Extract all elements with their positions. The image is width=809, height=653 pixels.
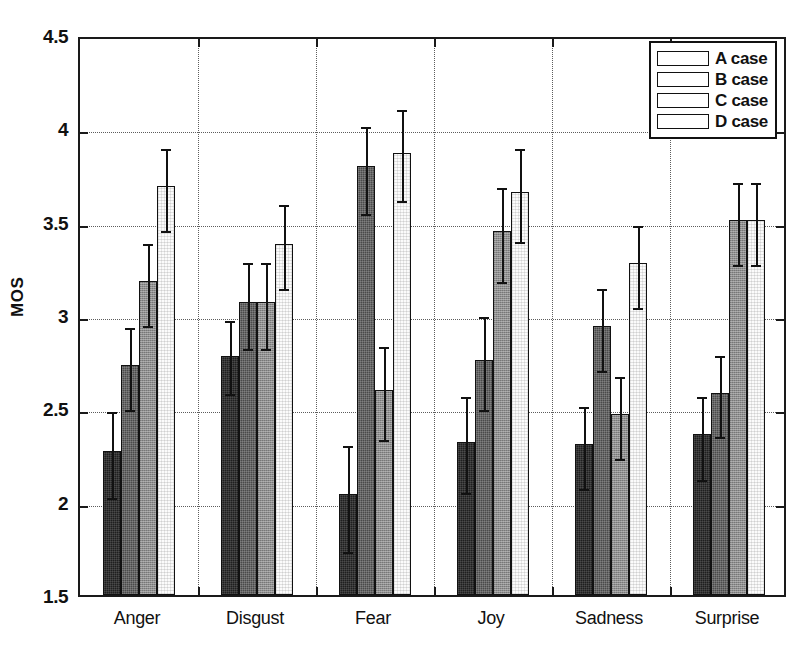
legend-label: D case	[715, 112, 768, 132]
error-bar-cap-lower	[225, 394, 234, 396]
error-bar-cap-lower	[379, 440, 388, 442]
error-bar-cap-lower	[343, 552, 352, 554]
error-bar	[284, 205, 286, 289]
error-bar-cap-upper	[261, 263, 270, 265]
error-bar	[402, 110, 404, 201]
legend-swatch-icon	[657, 72, 709, 87]
error-bar-cap-upper	[143, 244, 152, 246]
error-bar-cap-upper	[733, 183, 742, 185]
error-bar-cap-lower	[143, 326, 152, 328]
bar-anger-d	[157, 186, 175, 595]
legend-label: B case	[715, 70, 768, 90]
error-bar	[166, 149, 168, 231]
x-category-label-joy: Joy	[477, 608, 504, 629]
bar-surprise-c	[729, 220, 747, 595]
bar-sadness-d	[629, 263, 647, 595]
error-bar-cap-upper	[461, 397, 470, 399]
error-bar-cap-lower	[497, 282, 506, 284]
error-bar	[112, 412, 114, 498]
x-category-label-surprise: Surprise	[695, 608, 760, 629]
error-bar	[466, 397, 468, 492]
error-bar-cap-lower	[125, 410, 134, 412]
bar-joy-d	[511, 192, 529, 595]
error-bar-cap-lower	[597, 371, 606, 373]
error-bar-cap-lower	[733, 265, 742, 267]
error-bar	[384, 347, 386, 440]
error-bar-cap-lower	[715, 437, 724, 439]
error-bar-cap-upper	[279, 205, 288, 207]
error-bar-cap-upper	[243, 263, 252, 265]
error-bar-cap-lower	[515, 242, 524, 244]
error-bar-cap-lower	[697, 480, 706, 482]
error-bar-cap-lower	[107, 498, 116, 500]
bar-disgust-d	[275, 244, 293, 595]
legend-item-b: B case	[657, 69, 769, 90]
error-bar-cap-upper	[597, 289, 606, 291]
error-bar-cap-lower	[361, 214, 370, 216]
error-bar-cap-lower	[615, 459, 624, 461]
error-bar	[638, 226, 640, 308]
error-bar	[502, 188, 504, 281]
error-bar-cap-upper	[751, 183, 760, 185]
error-bar-cap-lower	[397, 201, 406, 203]
x-category-label-sadness: Sadness	[575, 608, 643, 629]
y-tick-label: 2	[58, 493, 68, 515]
x-category-label-anger: Anger	[114, 608, 161, 629]
y-tick-label: 2.5	[43, 399, 68, 421]
error-bar	[130, 328, 132, 410]
error-bar	[230, 321, 232, 394]
legend-item-d: D case	[657, 111, 769, 132]
error-bar-cap-lower	[579, 489, 588, 491]
error-bar-cap-lower	[461, 493, 470, 495]
legend-item-a: A case	[657, 48, 769, 69]
error-bar-cap-upper	[515, 149, 524, 151]
error-bar	[520, 149, 522, 242]
error-bar	[266, 263, 268, 349]
bar-joy-c	[493, 231, 511, 595]
error-bar-cap-lower	[279, 289, 288, 291]
y-tick-label: 4	[58, 119, 68, 141]
legend-label: A case	[715, 49, 767, 69]
bar-surprise-d	[747, 220, 765, 595]
legend-item-c: C case	[657, 90, 769, 111]
error-bar-cap-lower	[161, 231, 170, 233]
error-bar	[584, 407, 586, 489]
error-bar-cap-upper	[379, 347, 388, 349]
error-bar-cap-upper	[697, 397, 706, 399]
bar-fear-d	[393, 153, 411, 595]
error-bar-cap-upper	[615, 377, 624, 379]
x-category-label-disgust: Disgust	[226, 608, 284, 629]
error-bar-cap-upper	[579, 407, 588, 409]
error-bar-cap-upper	[361, 127, 370, 129]
error-bar-cap-lower	[243, 349, 252, 351]
error-bar	[720, 356, 722, 436]
error-bar-cap-upper	[479, 317, 488, 319]
error-bar	[602, 289, 604, 371]
x-category-label-fear: Fear	[355, 608, 391, 629]
y-tick-label: 1.5	[43, 586, 68, 608]
y-tick-label: 3.5	[43, 213, 68, 235]
error-bar-cap-upper	[225, 321, 234, 323]
bar-fear-b	[357, 166, 375, 595]
error-bar	[348, 446, 350, 552]
error-bar-cap-upper	[343, 446, 352, 448]
error-bar-cap-upper	[125, 328, 134, 330]
legend-swatch-icon	[657, 51, 709, 66]
error-bar-cap-upper	[397, 110, 406, 112]
error-bar	[738, 183, 740, 265]
error-bar	[620, 377, 622, 459]
error-bar-cap-upper	[497, 188, 506, 190]
error-bar-cap-lower	[633, 308, 642, 310]
error-bar-cap-lower	[261, 349, 270, 351]
y-axis-title: MOS	[8, 277, 28, 317]
error-bar	[366, 127, 368, 215]
y-tick-label: 3	[58, 306, 68, 328]
legend-swatch-icon	[657, 114, 709, 129]
error-bar-cap-upper	[107, 412, 116, 414]
error-bar	[702, 397, 704, 479]
legend-label: C case	[715, 91, 768, 111]
error-bar	[248, 263, 250, 349]
error-bar	[148, 244, 150, 326]
error-bar	[756, 183, 758, 265]
error-bar-cap-upper	[715, 356, 724, 358]
